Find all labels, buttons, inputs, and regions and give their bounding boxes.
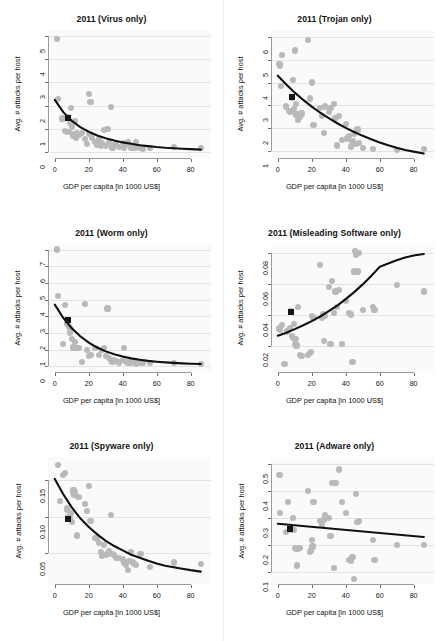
data-point [370,146,376,152]
data-point [104,126,110,132]
y-axis-label: Avg. # attacks per host [235,457,247,584]
data-point [86,483,92,489]
data-point [370,537,376,543]
x-tick-mark [123,585,124,588]
x-tick-mark [278,159,279,162]
x-tick-mark [55,373,56,376]
y-tick-label: 0.15 [37,481,49,511]
x-axis-label: GDP per capita [in 1000 US$] [0,182,223,191]
panel-title: 2011 (Spyware only) [0,441,223,451]
y-tick-label: 0.05 [37,554,49,584]
y-tick-label: 0.4 [260,491,272,521]
x-tick-label: 60 [365,165,395,174]
y-axis-label: Avg. # attacks per host [235,30,247,158]
data-point [371,307,377,313]
data-point [86,91,92,97]
data-point [310,499,316,505]
x-tick-mark [89,159,90,162]
column-divider [223,0,224,641]
gridline-horizontal [48,250,211,251]
data-point [171,559,177,565]
data-point [79,359,85,365]
x-tick-label: 60 [142,165,172,174]
y-tick-mark [268,464,271,465]
data-point [75,494,81,500]
data-point [421,146,427,152]
data-point [348,311,354,317]
x-tick-mark [380,585,381,588]
data-point [319,113,325,119]
gridline-horizontal [271,83,434,84]
data-point [68,105,74,111]
x-tick-mark [380,373,381,376]
data-point [294,562,300,568]
x-axis-label: GDP per capita [in 1000 US$] [223,608,446,617]
data-point [125,567,131,573]
x-tick-mark [312,159,313,162]
data-point [354,268,360,274]
y-axis-label: Avg. # attacks per host [12,457,24,584]
data-point [171,144,177,150]
highlight-marker [288,309,294,315]
gridline-horizontal [48,152,211,153]
data-point [336,466,342,472]
y-tick-mark [45,480,48,481]
x-tick-label: 20 [74,165,104,174]
data-point [297,545,303,551]
data-point [336,287,342,293]
x-tick-label: 80 [399,165,429,174]
x-tick-mark [55,585,56,588]
gridline-horizontal [271,60,434,61]
panel-adware: 2011 (Adware only) 0.10.20.30.40.5020406… [223,427,446,641]
data-point [394,542,400,548]
x-tick-label: 40 [331,165,361,174]
data-point [108,512,114,518]
y-axis-label: Avg. # attacks per host [12,30,24,158]
data-point [276,472,282,478]
x-tick-mark [312,585,313,588]
gridline-horizontal [48,300,211,301]
x-tick-label: 20 [74,591,104,600]
panel-title: 2011 (Adware only) [223,441,446,451]
y-tick-mark [45,517,48,518]
x-axis-label: GDP per capita [in 1000 US$] [0,608,223,617]
data-point [331,310,337,316]
data-point [354,126,360,132]
y-tick-label: 0.5 [260,464,272,494]
data-point [326,284,332,290]
x-axis-label: GDP per capita [in 1000 US$] [223,396,446,405]
data-point [108,104,114,110]
data-point [327,341,333,347]
x-tick-mark [346,159,347,162]
x-tick-label: 0 [263,379,293,388]
panel-title: 2011 (Trojan only) [223,14,446,24]
x-tick-mark [157,373,158,376]
y-tick-mark [268,284,271,285]
data-point [198,361,204,367]
data-point [360,145,366,151]
x-tick-label: 80 [176,379,206,388]
data-point [293,101,299,107]
x-tick-label: 0 [40,165,70,174]
data-point [394,147,400,153]
data-point [349,554,355,560]
x-tick-mark [191,373,192,376]
gridline-horizontal [271,128,434,129]
data-point [54,246,60,252]
panel-virus: 2011 (Virus only) 012345020406080Avg. # … [0,0,223,214]
data-point [329,278,335,284]
data-point [72,118,78,124]
data-point [343,121,349,127]
x-tick-label: 0 [263,591,293,600]
data-point [360,307,366,313]
x-tick-mark [278,585,279,588]
x-tick-mark [89,585,90,588]
multi-panel-scatter-figure: 2011 (Virus only) 012345020406080Avg. # … [0,0,446,641]
x-tick-mark [191,585,192,588]
gridline-horizontal [48,36,211,37]
panel-trojan: 2011 (Trojan only) 123456020406080Avg. #… [223,0,446,214]
data-point [292,47,298,53]
x-tick-mark [278,373,279,376]
gridline-horizontal [271,151,434,152]
data-point [198,561,204,567]
